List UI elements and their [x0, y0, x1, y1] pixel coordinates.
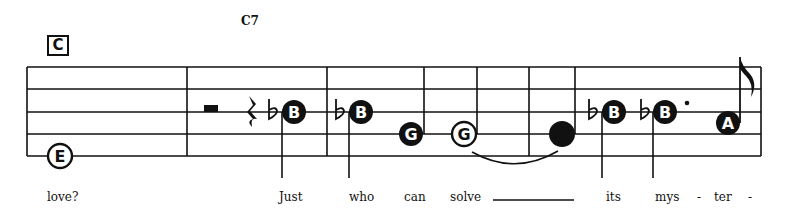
lyric-syllable: Just [279, 190, 303, 204]
note-g-hollow: G [452, 67, 477, 146]
music-staff: E B B G G [0, 0, 789, 214]
note-g-filled: G [399, 67, 424, 146]
svg-text:B: B [659, 103, 671, 122]
lyric-hyphen: - [697, 190, 701, 204]
lyric-syllable: mys [655, 190, 679, 204]
flat-icon [269, 99, 277, 119]
note-e-hollow: E [48, 144, 72, 168]
svg-text:E: E [55, 147, 66, 166]
flat-icon [589, 99, 597, 119]
flat-icon [641, 99, 649, 119]
flat-icon [336, 99, 344, 119]
lyric-syllable: love? [47, 190, 78, 204]
note-a-eighth: A [716, 57, 754, 135]
lyric-syllable: ter [714, 190, 732, 204]
staff-lines [27, 67, 761, 156]
lyric-syllable: solve [450, 190, 481, 204]
lyric-hyphen: - [748, 190, 752, 204]
note-b-flat-2: B [349, 100, 373, 178]
eighth-flag-icon [740, 57, 754, 97]
lyric-syllable: who [349, 190, 374, 204]
svg-text:B: B [355, 103, 367, 122]
note-tied-filled [549, 67, 575, 147]
lyric-syllable: its [606, 190, 621, 204]
tie-arc [472, 151, 558, 164]
augmentation-dot [685, 101, 690, 106]
svg-text:B: B [608, 103, 620, 122]
note-b-flat-3: B [602, 100, 626, 178]
svg-text:B: B [288, 103, 300, 122]
svg-text:A: A [722, 114, 735, 133]
svg-text:G: G [404, 125, 417, 144]
half-rest-icon [204, 105, 218, 112]
svg-text:G: G [457, 125, 470, 144]
note-b-flat-1: B [282, 100, 306, 178]
lyric-syllable: can [404, 190, 426, 204]
